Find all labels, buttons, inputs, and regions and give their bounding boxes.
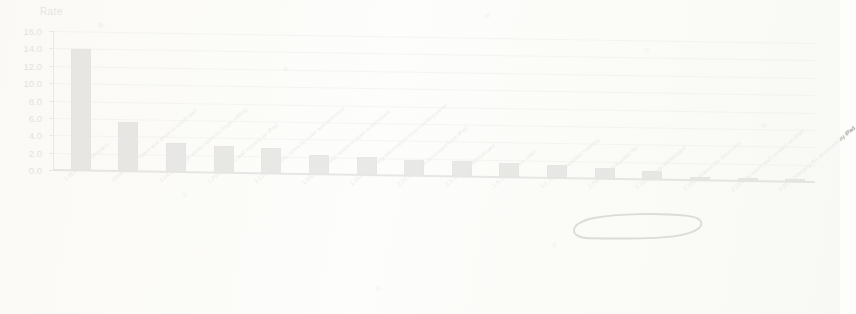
x-axis-category-label: 2.5View downloaded file bbox=[587, 145, 639, 190]
x-axis-category-label: 3.14.2Do-stack sticky notes by finger sl… bbox=[158, 106, 249, 183]
x-axis-category-label: 3.12Navigate whiteboard bbox=[634, 145, 687, 191]
x-axis-category-label: 1.2View meeting information from meeting… bbox=[349, 102, 448, 187]
x-axis-category-label: 1.6Display workspace bbox=[63, 141, 110, 182]
x-axis-category-label: 3.13Stack sticky notes by color and sele… bbox=[253, 106, 346, 185]
x-axis-category-label: 2.23View touch wall content on iPad bbox=[730, 128, 805, 193]
x-axis-category-label: 3.9.1Launch Whiteboard bbox=[444, 143, 496, 188]
x-axis-category-label: 2.16.2Enlarging the document by iPad bbox=[777, 125, 856, 193]
x-axis-category-label: 1.8.1Play active chart bbox=[491, 148, 538, 188]
x-axis-category-label: Create sticky notes and show to touch wa… bbox=[110, 107, 198, 182]
x-axis-category-label: 1.5Access group space to open a document bbox=[301, 108, 392, 185]
